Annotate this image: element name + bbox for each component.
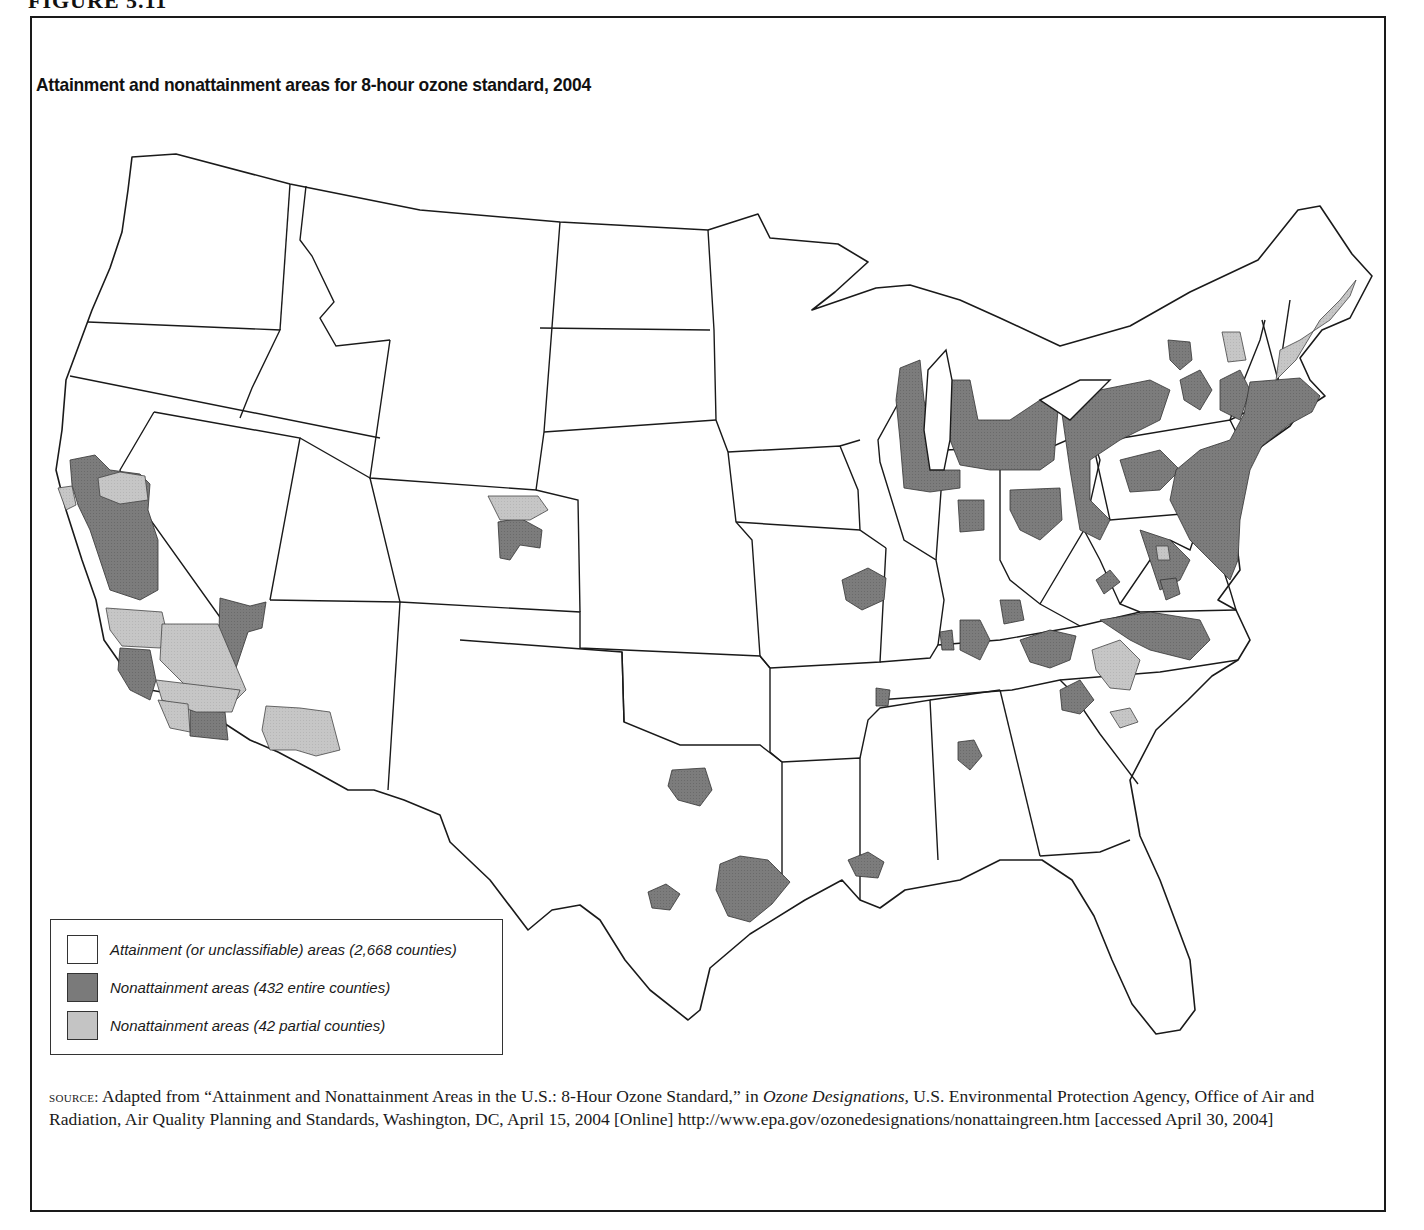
legend-item-attainment: Attainment (or unclassifiable) areas (2,… <box>67 934 457 964</box>
source-prefix: SOURCE: <box>49 1089 99 1105</box>
legend-swatch-nonattainment-entire <box>67 973 98 1002</box>
legend-label-nonattainment-entire: Nonattainment areas (432 entire counties… <box>110 979 390 996</box>
map-legend: Attainment (or unclassifiable) areas (2,… <box>50 919 503 1055</box>
legend-label-attainment: Attainment (or unclassifiable) areas (2,… <box>110 941 457 958</box>
legend-swatch-attainment <box>67 935 98 964</box>
legend-item-nonattainment-partial: Nonattainment areas (42 partial counties… <box>67 1010 385 1040</box>
legend-label-nonattainment-partial: Nonattainment areas (42 partial counties… <box>110 1017 385 1034</box>
source-publication: Ozone Designations, <box>763 1086 909 1106</box>
source-text-1: Adapted from “Attainment and Nonattainme… <box>99 1086 763 1106</box>
source-citation: SOURCE: Adapted from “Attainment and Non… <box>49 1085 1379 1130</box>
legend-swatch-nonattainment-partial <box>67 1011 98 1040</box>
legend-item-nonattainment-entire: Nonattainment areas (432 entire counties… <box>67 972 390 1002</box>
